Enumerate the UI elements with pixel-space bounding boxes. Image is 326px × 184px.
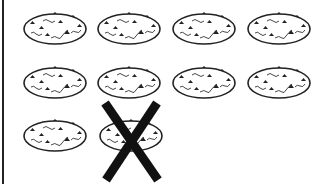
pizza	[24, 12, 86, 44]
pizza	[173, 12, 235, 44]
pizza	[173, 66, 235, 98]
pizza	[248, 12, 310, 44]
pizza	[24, 66, 86, 98]
pizza	[98, 12, 160, 44]
pizza	[98, 66, 160, 98]
pizza-diagram	[0, 0, 326, 184]
pizza	[248, 66, 310, 98]
pizza-row-2	[24, 66, 310, 98]
pizza	[24, 119, 86, 151]
pizza-row-1	[24, 12, 310, 44]
